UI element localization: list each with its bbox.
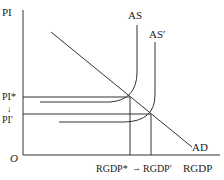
pi-prime-label: PI′ <box>2 114 13 125</box>
ad-curve <box>51 32 192 147</box>
as-prime-curve <box>59 42 155 122</box>
ad-label: AD <box>192 141 208 153</box>
rgdp-star-label: RGDP* <box>96 163 128 174</box>
x-axis-label: RGDP <box>183 162 212 174</box>
rgdp-prime-label: RGDP′ <box>143 163 172 174</box>
price-down-arrow-icon: ↓ <box>7 104 12 114</box>
origin-label: O <box>10 152 18 164</box>
y-axis-label: PI <box>2 6 12 18</box>
output-right-arrow-icon: → <box>132 163 141 173</box>
pi-star-label: PI* <box>2 91 16 102</box>
as-prime-label: AS′ <box>149 28 165 40</box>
as-label: AS <box>128 9 142 21</box>
as-ad-diagram: PI O RGDP AS AS′ AD PI* ↓ PI′ RGDP* → RG… <box>0 0 224 180</box>
